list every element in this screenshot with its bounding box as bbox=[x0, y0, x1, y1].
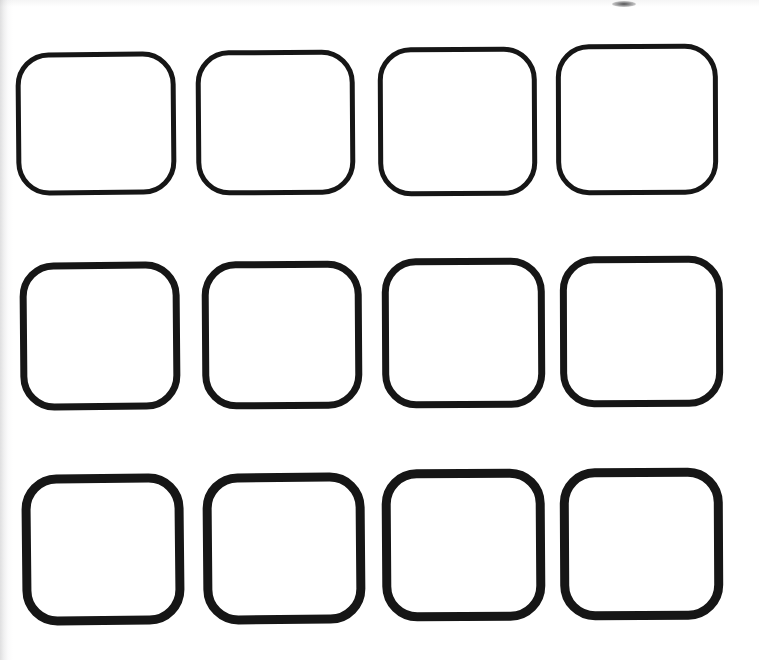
cell-r3c2[interactable] bbox=[202, 472, 365, 624]
cell-r1c1[interactable] bbox=[15, 51, 176, 195]
rounded-square-grid bbox=[0, 0, 759, 660]
cell-r2c3[interactable] bbox=[382, 258, 546, 409]
cell-r1c3[interactable] bbox=[378, 47, 538, 197]
cell-r1c2[interactable] bbox=[195, 49, 355, 195]
cell-r2c2[interactable] bbox=[201, 260, 362, 409]
cell-r3c3[interactable] bbox=[381, 468, 545, 621]
cell-r2c1[interactable] bbox=[19, 261, 180, 410]
worksheet-page bbox=[0, 0, 759, 660]
cell-r1c4[interactable] bbox=[556, 44, 719, 196]
cell-r3c1[interactable] bbox=[21, 473, 185, 626]
cell-r3c4[interactable] bbox=[560, 468, 724, 621]
cell-r2c4[interactable] bbox=[560, 256, 724, 408]
